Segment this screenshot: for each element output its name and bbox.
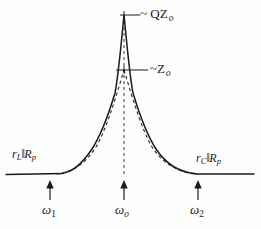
right-label-rp: R	[209, 151, 216, 165]
left-baseline-label: rL‖Rp	[12, 148, 36, 162]
asymptote-dashed-left	[56, 70, 124, 174]
left-label-sub-p: p	[32, 152, 36, 162]
peak-tilde: ~ QZ	[140, 6, 168, 21]
omega-2-subscript: 2	[199, 209, 204, 219]
right-label-sub-p: p	[217, 156, 221, 166]
impedance-curve-solid	[63, 15, 195, 174]
z0-tilde: ~Z	[150, 61, 165, 76]
asymptote-dashed-right	[124, 70, 198, 175]
right-baseline-label: rC‖Rp	[196, 152, 221, 166]
z0-leader-line	[116, 66, 148, 74]
omega-1-subscript: 1	[51, 209, 56, 219]
omega-0-subscript: o	[124, 209, 129, 219]
resonance-impedance-figure: ~ QZo ~Zo rL‖Rp rC‖Rp ω1 ωo ω2	[0, 0, 261, 229]
figure-canvas	[0, 0, 261, 229]
omega-2-symbol: ω	[190, 202, 199, 217]
omega-0-label: ωo	[115, 203, 129, 219]
left-label-rp: R	[24, 147, 31, 161]
omega-0-arrow	[120, 180, 127, 200]
omega-2-label: ω2	[190, 203, 204, 219]
omega-1-symbol: ω	[42, 202, 51, 217]
omega-1-arrow	[46, 180, 53, 200]
omega-0-symbol: ω	[115, 202, 124, 217]
peak-value-label: ~ QZo	[140, 7, 173, 23]
peak-subscript: o	[169, 13, 174, 23]
omega-1-label: ω1	[42, 203, 56, 219]
omega-2-arrow	[194, 180, 201, 200]
z0-subscript: o	[166, 68, 171, 78]
left-baseline-path	[6, 174, 63, 175]
z0-value-label: ~Zo	[150, 62, 171, 78]
